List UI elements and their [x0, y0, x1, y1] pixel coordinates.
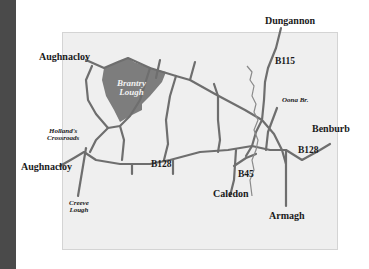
- label-b115: B115: [275, 57, 295, 67]
- road-b128: [60, 144, 330, 166]
- label-oona-br: Oona Br.: [282, 97, 308, 104]
- label-aughnacloy-west: Aughnacloy: [21, 162, 72, 172]
- label-brantry-lough: Brantry Lough: [117, 79, 146, 98]
- label-b45: B45: [238, 170, 254, 180]
- road-oona: [266, 108, 277, 150]
- label-caledon: Caledon: [213, 189, 249, 199]
- label-b128-east: B128: [298, 146, 319, 156]
- label-creeve-lough: Creeve Lough: [69, 200, 89, 215]
- road-local-west-3: [120, 126, 124, 160]
- label-hollands-crossroads: Holland's Crossroads: [47, 128, 79, 143]
- label-dungannon: Dungannon: [265, 16, 315, 26]
- label-benburb: Benburb: [312, 124, 350, 134]
- road-local-ne: [190, 62, 195, 80]
- road-b115: [262, 28, 281, 120]
- road-local-west-2: [90, 128, 108, 152]
- label-armagh: Armagh: [269, 211, 305, 221]
- label-b128-west: B128: [151, 160, 172, 170]
- label-aughnacloy-north: Aughnacloy: [39, 52, 90, 62]
